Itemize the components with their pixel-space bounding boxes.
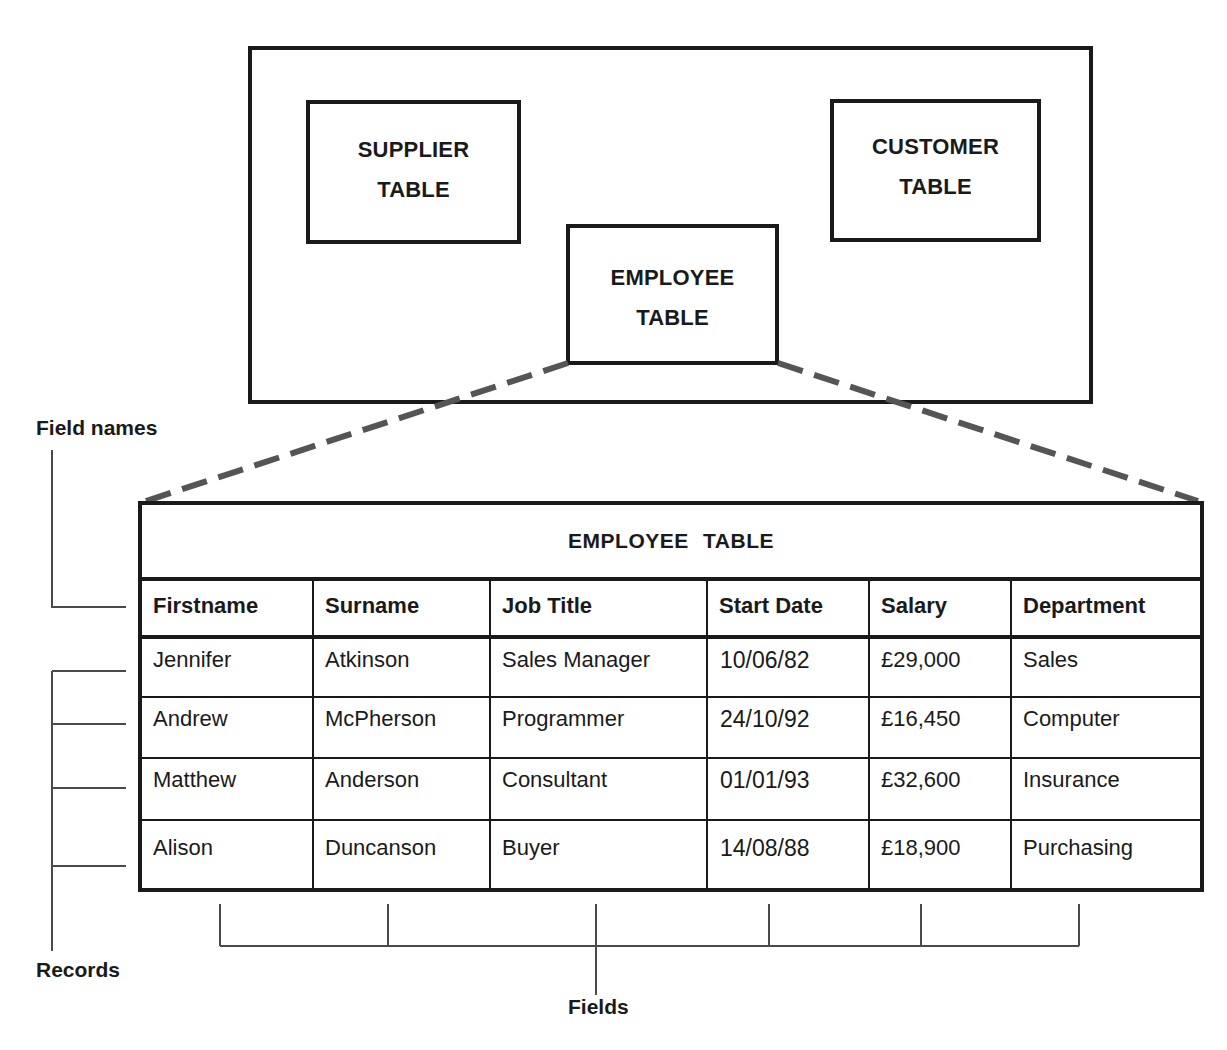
column-header: Job Title (490, 579, 707, 637)
cell-surname: McPherson (313, 697, 490, 759)
cell-start-date: 14/08/88 (707, 820, 869, 890)
cell-salary: £29,000 (869, 637, 1011, 697)
cell-start-date: 24/10/92 (707, 697, 869, 759)
dashed-connector-right (778, 363, 1198, 501)
column-header: Department (1011, 579, 1202, 637)
field-names-label: Field names (36, 416, 157, 440)
table-row: Matthew Anderson Consultant 01/01/93 £32… (140, 758, 1202, 820)
cell-salary: £18,900 (869, 820, 1011, 890)
cell-start-date: 10/06/82 (707, 637, 869, 697)
cell-department: Purchasing (1011, 820, 1202, 890)
table-row: Alison Duncanson Buyer 14/08/88 £18,900 … (140, 820, 1202, 890)
employee-table-title: EMPLOYEE TABLE (140, 503, 1202, 579)
cell-surname: Duncanson (313, 820, 490, 890)
table-row: Jennifer Atkinson Sales Manager 10/06/82… (140, 637, 1202, 697)
dashed-connector-left (140, 363, 568, 503)
cell-job-title: Programmer (490, 697, 707, 759)
column-header: Firstname (140, 579, 313, 637)
fields-label: Fields (568, 995, 629, 1019)
cell-department: Sales (1011, 637, 1202, 697)
column-header: Surname (313, 579, 490, 637)
cell-job-title: Sales Manager (490, 637, 707, 697)
cell-surname: Atkinson (313, 637, 490, 697)
cell-firstname: Matthew (140, 758, 313, 820)
column-header: Salary (869, 579, 1011, 637)
cell-start-date: 01/01/93 (707, 758, 869, 820)
column-header: Start Date (707, 579, 869, 637)
records-label: Records (36, 958, 120, 982)
employee-table-detail: EMPLOYEE TABLE Firstname Surname Job Tit… (138, 501, 1204, 892)
cell-department: Insurance (1011, 758, 1202, 820)
cell-department: Computer (1011, 697, 1202, 759)
cell-salary: £32,600 (869, 758, 1011, 820)
field-names-row: Firstname Surname Job Title Start Date S… (140, 579, 1202, 637)
cell-firstname: Alison (140, 820, 313, 890)
cell-firstname: Andrew (140, 697, 313, 759)
cell-salary: £16,450 (869, 697, 1011, 759)
field-names-leader (52, 450, 126, 607)
table-row: Andrew McPherson Programmer 24/10/92 £16… (140, 697, 1202, 759)
cell-surname: Anderson (313, 758, 490, 820)
cell-job-title: Buyer (490, 820, 707, 890)
cell-job-title: Consultant (490, 758, 707, 820)
cell-firstname: Jennifer (140, 637, 313, 697)
